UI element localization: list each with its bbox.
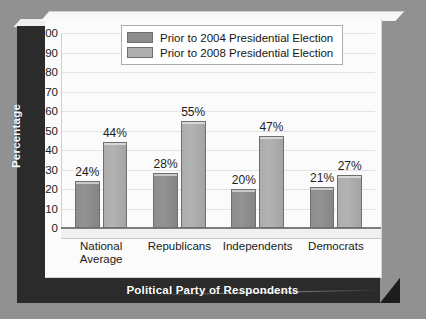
bar: 44% <box>103 142 128 228</box>
bar-top-face <box>153 173 178 176</box>
bar-value-label: 20% <box>232 173 256 187</box>
bar-value-label: 24% <box>75 165 99 179</box>
y-tick-label: 80 <box>45 66 58 78</box>
y-tick-label: 20 <box>45 183 58 195</box>
bar: 47% <box>259 136 284 228</box>
bar-top-face <box>181 121 206 124</box>
x-tick-label: Democrats <box>308 240 364 253</box>
bar-value-label: 44% <box>103 126 127 140</box>
y-tick-label: 50 <box>45 125 58 137</box>
y-tick-label: 60 <box>45 105 58 117</box>
bar: 20% <box>231 189 256 228</box>
legend-swatch-2004 <box>127 32 153 43</box>
bar-top-face <box>231 189 256 192</box>
bar-value-label: 27% <box>338 159 362 173</box>
legend-label-2008: Prior to 2008 Presidential Election <box>160 47 333 59</box>
y-tick-label: 100 <box>45 27 58 39</box>
bar: 27% <box>337 175 362 228</box>
bar-value-label: 55% <box>181 105 205 119</box>
legend-item-2004: Prior to 2004 Presidential Election <box>127 30 333 45</box>
y-tick-label: 70 <box>45 86 58 98</box>
x-tick-label: NationalAverage <box>80 240 123 266</box>
bar: 28% <box>153 173 178 228</box>
bar-value-label: 21% <box>310 171 334 185</box>
y-tick-label: 40 <box>45 144 58 156</box>
bar: 24% <box>75 181 100 228</box>
y-tick-label: 10 <box>45 203 58 215</box>
y-tick-label: 90 <box>45 47 58 59</box>
bar: 55% <box>181 121 206 228</box>
bar: 21% <box>310 187 335 228</box>
legend: Prior to 2004 Presidential Election Prio… <box>121 25 343 65</box>
legend-label-2004: Prior to 2004 Presidential Election <box>160 32 333 44</box>
bar-top-face <box>259 136 284 139</box>
y-axis-title: Percentage <box>10 96 22 176</box>
bar-top-face <box>103 142 128 145</box>
bar-top-face <box>310 187 335 190</box>
x-tick-label: Independents <box>223 240 293 253</box>
bar-value-label: 47% <box>259 120 283 134</box>
y-tick-label: 0 <box>52 222 58 234</box>
bar-top-face <box>75 181 100 184</box>
legend-swatch-2008 <box>127 47 153 58</box>
chart-panel: 010203040506070809010024%44%NationalAver… <box>45 19 382 278</box>
legend-item-2008: Prior to 2008 Presidential Election <box>127 45 333 60</box>
bar-top-face <box>337 175 362 178</box>
bar-value-label: 28% <box>154 157 178 171</box>
y-tick-label: 30 <box>45 164 58 176</box>
x-tick-label: Republicans <box>148 240 211 253</box>
bar-chart-figure: Percentage Political Party of Respondent… <box>0 0 426 319</box>
